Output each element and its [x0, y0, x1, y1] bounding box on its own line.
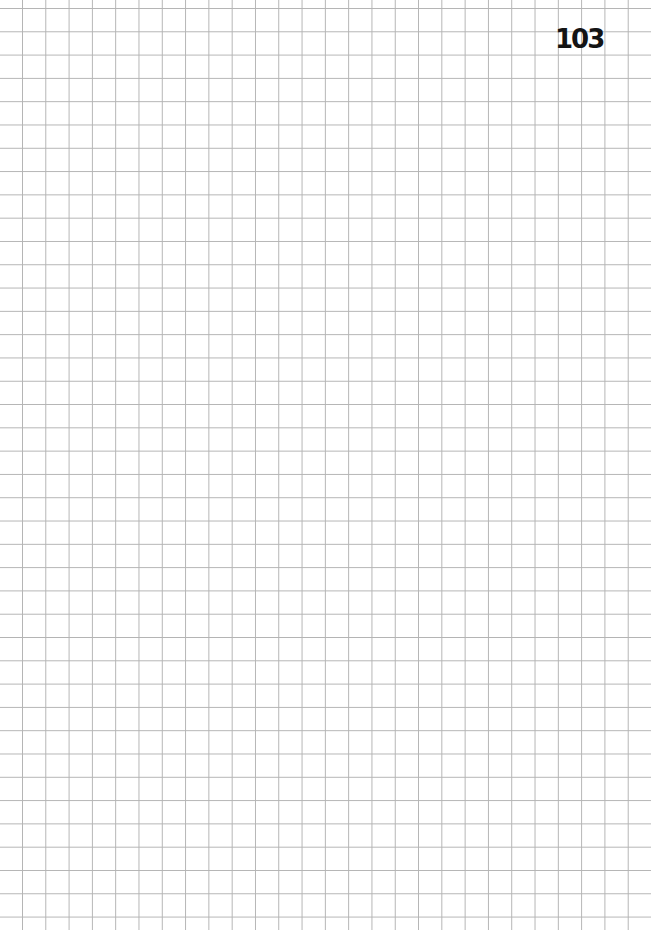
grid-paper-background — [0, 0, 651, 930]
page-number: 103 — [555, 26, 603, 52]
